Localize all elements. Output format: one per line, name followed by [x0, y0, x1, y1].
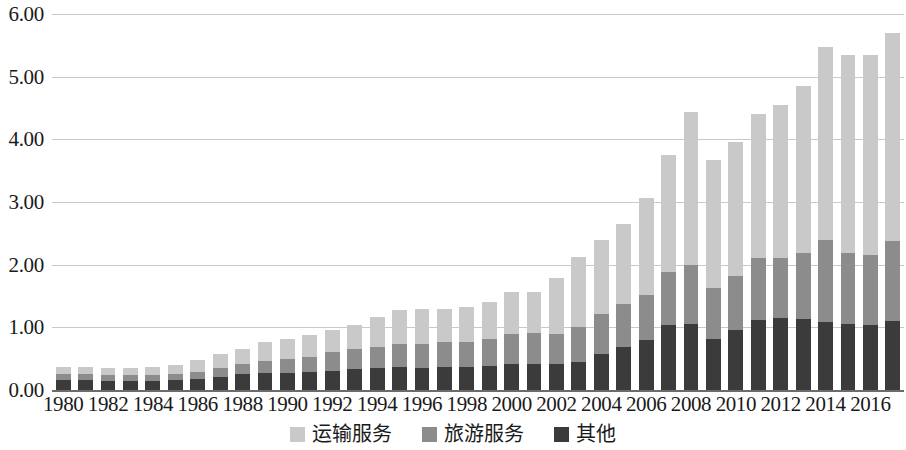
- bar-segment: [415, 344, 430, 368]
- bar-segment: [168, 374, 183, 380]
- bar-segment: [213, 354, 228, 368]
- bar-segment: [661, 325, 676, 390]
- bar-segment: [190, 372, 205, 379]
- bar-segment: [325, 352, 340, 370]
- bar-segment: [213, 377, 228, 390]
- bar-group: [504, 14, 519, 390]
- bar-segment: [549, 278, 564, 333]
- y-tick-label: 5.00: [0, 67, 44, 88]
- bar-segment: [796, 253, 811, 319]
- bar-group: [571, 14, 586, 390]
- bar-segment: [818, 240, 833, 323]
- bar-segment: [280, 373, 295, 390]
- x-tick-label: 2012: [756, 392, 806, 416]
- bar-segment: [392, 367, 407, 390]
- bar-group: [370, 14, 385, 390]
- bar-segment: [482, 302, 497, 340]
- bar-segment: [482, 339, 497, 366]
- bar-segment: [235, 374, 250, 390]
- x-tick-label: 1984: [128, 392, 178, 416]
- bar-segment: [325, 371, 340, 390]
- bar-segment: [347, 369, 362, 390]
- bar-segment: [616, 224, 631, 304]
- bar-segment: [796, 86, 811, 253]
- legend-swatch-icon: [554, 427, 569, 442]
- bar-group: [728, 14, 743, 390]
- bar-segment: [459, 342, 474, 368]
- bar-segment: [639, 340, 654, 390]
- bar-group: [78, 14, 93, 390]
- bar-group: [706, 14, 721, 390]
- x-tick-label: 2000: [487, 392, 537, 416]
- bar-segment: [504, 292, 519, 334]
- bar-segment: [145, 375, 160, 381]
- bar-group: [863, 14, 878, 390]
- bar-segment: [392, 310, 407, 343]
- x-tick-label: 1982: [83, 392, 133, 416]
- bar-segment: [347, 349, 362, 368]
- bar-group: [661, 14, 676, 390]
- y-tick-label: 6.00: [0, 4, 44, 25]
- bar-segment: [639, 295, 654, 340]
- bar-segment: [549, 334, 564, 365]
- bar-segment: [706, 160, 721, 288]
- chart-legend: 运输服务旅游服务其他: [0, 424, 906, 444]
- bar-segment: [415, 368, 430, 390]
- bar-segment: [123, 375, 138, 381]
- bar-segment: [751, 114, 766, 258]
- x-tick-label: 1990: [262, 392, 312, 416]
- bar-group: [258, 14, 273, 390]
- x-axis-labels: 1980198219841986198819901992199419961998…: [52, 392, 904, 422]
- bar-segment: [437, 309, 452, 343]
- bar-segment: [549, 364, 564, 390]
- bar-segment: [571, 257, 586, 328]
- bar-group: [482, 14, 497, 390]
- bar-group: [818, 14, 833, 390]
- bar-segment: [392, 344, 407, 368]
- legend-swatch-icon: [422, 427, 437, 442]
- bar-segment: [123, 368, 138, 375]
- y-tick-label: 1.00: [0, 317, 44, 338]
- y-tick-label: 3.00: [0, 192, 44, 213]
- bar-segment: [594, 354, 609, 390]
- x-tick-label: 1980: [38, 392, 88, 416]
- bar-segment: [571, 327, 586, 361]
- bar-group: [459, 14, 474, 390]
- bar-segment: [751, 258, 766, 320]
- bar-segment: [527, 333, 542, 364]
- bar-group: [639, 14, 654, 390]
- bar-segment: [280, 359, 295, 373]
- x-tick-label: 2002: [531, 392, 581, 416]
- bar-segment: [527, 364, 542, 390]
- bar-segment: [841, 55, 856, 253]
- bar-segment: [684, 265, 699, 324]
- bar-segment: [773, 105, 788, 257]
- bar-segment: [101, 375, 116, 381]
- legend-label: 其他: [576, 424, 616, 444]
- x-tick-label: 2014: [801, 392, 851, 416]
- legend-item[interactable]: 其他: [554, 424, 616, 444]
- bar-segment: [751, 320, 766, 390]
- bar-segment: [796, 319, 811, 390]
- bar-group: [325, 14, 340, 390]
- legend-label: 运输服务: [312, 424, 392, 444]
- x-tick-label: 1994: [352, 392, 402, 416]
- legend-item[interactable]: 运输服务: [290, 424, 392, 444]
- bar-segment: [728, 276, 743, 330]
- bar-segment: [684, 324, 699, 390]
- bar-segment: [190, 360, 205, 373]
- bar-segment: [863, 255, 878, 325]
- bar-segment: [235, 364, 250, 374]
- bar-segment: [56, 367, 71, 374]
- bar-segment: [773, 318, 788, 390]
- legend-item[interactable]: 旅游服务: [422, 424, 524, 444]
- bar-segment: [661, 272, 676, 325]
- bar-segment: [258, 342, 273, 361]
- bar-group: [549, 14, 564, 390]
- bar-segment: [885, 321, 900, 390]
- bar-group: [302, 14, 317, 390]
- bar-segment: [190, 379, 205, 390]
- bar-segment: [168, 365, 183, 374]
- bar-segment: [78, 367, 93, 374]
- bar-segment: [459, 307, 474, 341]
